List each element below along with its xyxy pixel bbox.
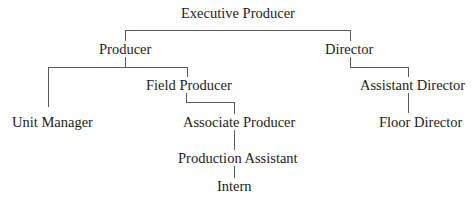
node-production-assistant: Production Assistant [177, 150, 299, 166]
node-field-producer: Field Producer [145, 77, 233, 93]
node-executive-producer: Executive Producer [180, 5, 296, 21]
node-producer: Producer [98, 41, 152, 57]
node-intern: Intern [216, 178, 253, 194]
node-director: Director [324, 41, 374, 57]
connector-lines [0, 0, 473, 204]
node-associate-producer: Associate Producer [182, 114, 296, 130]
node-floor-director: Floor Director [378, 114, 463, 130]
node-assistant-director: Assistant Director [359, 77, 466, 93]
node-unit-manager: Unit Manager [11, 114, 94, 130]
